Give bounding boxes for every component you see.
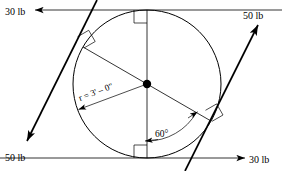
statics-diagram: 30 lb 30 lb 50 lb 50 lb 60° r = 3' – 0": [0, 0, 282, 171]
radius-dimension-label: r = 3' – 0": [77, 81, 114, 103]
force-arrow-50lb-lower-left: [27, 0, 97, 141]
angle-label-60: 60°: [155, 129, 169, 139]
right-angle-mark-bottom: [134, 145, 147, 158]
diagram-canvas: 30 lb 30 lb 50 lb 50 lb 60° r = 3' – 0": [0, 0, 282, 171]
force-label-50lb-lower-left: 50 lb: [5, 152, 25, 163]
angle-60-leader-right: [188, 112, 198, 118]
right-angle-mark-top: [134, 10, 147, 23]
force-label-30lb-bottom: 30 lb: [249, 154, 269, 165]
force-arrow-50lb-upper-right: [185, 25, 258, 171]
force-label-50lb-upper-right: 50 lb: [243, 10, 263, 21]
center-hub-dot: [143, 80, 151, 88]
force-label-30lb-top: 30 lb: [5, 6, 25, 17]
